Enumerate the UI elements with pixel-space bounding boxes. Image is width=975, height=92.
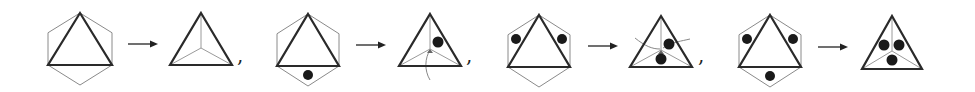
- folded-triangle: [399, 14, 461, 80]
- hexagon-with-triangle: [48, 13, 112, 85]
- pebble-dot: [511, 34, 521, 44]
- right-arrow-icon: [128, 41, 158, 48]
- folded-triangle: [170, 13, 232, 65]
- pebble-dot: [887, 55, 898, 66]
- hexagon-with-triangle: [277, 14, 339, 86]
- step-3: ,: [508, 15, 704, 87]
- step-2: ,: [277, 14, 472, 86]
- right-arrow-icon: [588, 43, 618, 50]
- pebble-dot: [879, 40, 890, 51]
- hexagon-with-triangle: [739, 15, 801, 87]
- folded-triangle: [862, 16, 922, 69]
- comma-separator: ,: [237, 43, 243, 67]
- hexagon-folding-diagram: ,,,: [0, 0, 975, 92]
- triangle-outline: [48, 13, 112, 65]
- comma-separator: ,: [466, 43, 472, 67]
- pebble-dot: [788, 34, 798, 44]
- step-4: [739, 15, 922, 87]
- pebble-dot: [557, 34, 567, 44]
- pebble-dot: [303, 70, 313, 80]
- folded-triangle: [630, 16, 692, 67]
- comma-separator: ,: [698, 43, 704, 67]
- pebble-dot: [765, 71, 775, 81]
- triangle-outline: [277, 14, 339, 66]
- right-arrow-icon: [818, 44, 848, 51]
- pebble-dot: [742, 34, 752, 44]
- pebble-dot: [433, 37, 444, 48]
- step-1: ,: [48, 13, 243, 85]
- pebble-dot: [894, 40, 905, 51]
- pebble-dot: [656, 54, 667, 65]
- hexagon-with-triangle: [508, 15, 570, 87]
- pebble-dot: [664, 39, 675, 50]
- right-arrow-icon: [356, 42, 386, 49]
